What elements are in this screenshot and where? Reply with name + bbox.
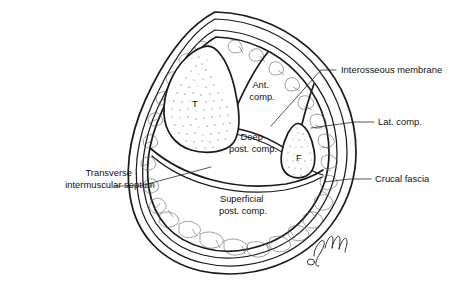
ant-comp-label-line-2: comp. [249, 92, 274, 102]
transverse-septum-label-line-1: Transverse [85, 167, 132, 178]
leg-cross-section-svg: T F Ant. [0, 0, 465, 282]
anatomy-figure: T F Ant. [0, 0, 465, 282]
deep-post-comp-label-line-2: post. comp. [229, 144, 277, 154]
superficial-post-comp-label-line-1: Superficial [220, 194, 263, 204]
ant-comp-label-line-1: Ant. [252, 80, 269, 90]
deep-post-comp-label-line-1: Deep [241, 132, 263, 142]
lat-comp-label: Lat. comp. [378, 116, 422, 127]
interosseous-membrane-label: Interosseous membrane [341, 64, 442, 75]
tibia-letter: T [192, 98, 198, 109]
superficial-post-comp-label-line-2: post. comp. [219, 206, 267, 216]
transverse-septum-label-line-2: intermuscular septum [65, 179, 155, 190]
fibula-letter: F [296, 152, 302, 163]
crucal-fascia-label: Crucal fascia [375, 173, 430, 184]
